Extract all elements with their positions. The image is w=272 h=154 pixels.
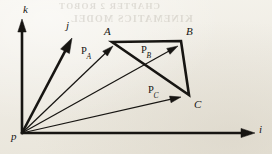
vector-diagram-figure: CHAPTER 2 ROBOT KINEMATICS MODEL kjipABC… — [0, 0, 272, 154]
vector-pc-label-base: P — [148, 84, 154, 95]
vector-pc-shaft — [22, 99, 173, 133]
vector-pb-label-base: P — [141, 44, 147, 55]
axis-label-i: i — [259, 124, 262, 135]
i-axis-head — [241, 128, 255, 137]
vertex-label-C: C — [194, 99, 201, 110]
origin-point-marker — [20, 131, 23, 134]
j-axis-head — [61, 38, 72, 54]
origin-dot — [20, 131, 23, 134]
vertex-label-B: B — [186, 26, 193, 37]
vector-pb-label: PB — [141, 45, 151, 58]
vector-pa-label-subscript: A — [87, 52, 92, 61]
k-axis-head — [18, 19, 26, 32]
axis-label-j: j — [66, 20, 69, 31]
axis-label-k: k — [23, 4, 28, 15]
vector-pc-label-subscript: C — [154, 91, 159, 100]
vector-pa-label: PA — [81, 46, 91, 59]
vector-pb-label-subscript: B — [147, 51, 152, 60]
vector-pa-label-base: P — [81, 45, 87, 56]
origin-label-p: p — [11, 131, 17, 142]
vector-drawing-canvas — [0, 0, 272, 154]
vector-pc-head — [170, 96, 181, 103]
vector-pc-label: PC — [148, 85, 159, 98]
vector-pb-head — [167, 46, 178, 54]
vertex-label-A: A — [104, 26, 111, 37]
axes-group — [18, 19, 255, 138]
